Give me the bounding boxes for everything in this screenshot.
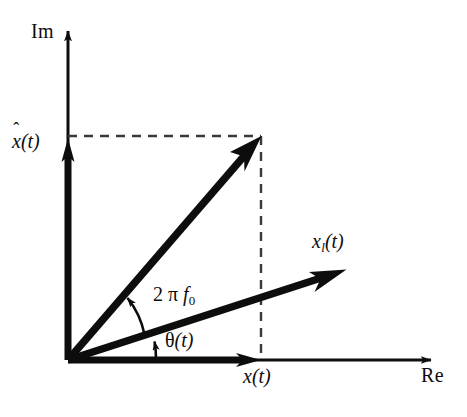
x-hat-glyph: ˆx: [12, 131, 21, 151]
x-l-base: x: [312, 230, 321, 252]
imaginary-component-label: ˆx(t): [12, 131, 40, 151]
carrier-angle-label: 2 π f0: [153, 284, 195, 307]
real-component-vector: [68, 353, 261, 367]
pi-glyph: π: [168, 283, 178, 305]
imaginary-axis-label: Im: [31, 21, 54, 41]
theta-suffix: (t): [175, 329, 194, 351]
phase-angle-arc: [155, 342, 157, 360]
carrier-angle-f-subscript: 0: [189, 293, 196, 308]
theta-glyph: θ: [165, 329, 175, 351]
carrier-angle-arc: [128, 298, 145, 335]
lowpass-equivalent-label: xl(t): [312, 231, 344, 254]
phase-angle-arc-path: [155, 342, 157, 360]
diagram-canvas: [0, 0, 467, 417]
x-l-suffix: (t): [325, 230, 344, 252]
hat-accent-icon: ˆ: [13, 120, 19, 138]
real-component-label: x(t): [243, 366, 271, 386]
x-hat-suffix: (t): [21, 130, 40, 152]
real-axis-label: Re: [421, 365, 444, 385]
phasor-diagram-figure: Im Re ˆx(t) x(t) xl(t) 2 π f0 θ(t): [0, 0, 467, 417]
imaginary-component-vector: [62, 138, 75, 360]
carrier-angle-f: f: [183, 283, 189, 305]
x-of-t-suffix: (t): [252, 365, 271, 387]
carrier-angle-arc-path: [128, 298, 145, 335]
x-of-t-base: x: [243, 365, 252, 387]
carrier-angle-two: 2: [153, 283, 163, 305]
phase-angle-label: θ(t): [165, 330, 193, 350]
